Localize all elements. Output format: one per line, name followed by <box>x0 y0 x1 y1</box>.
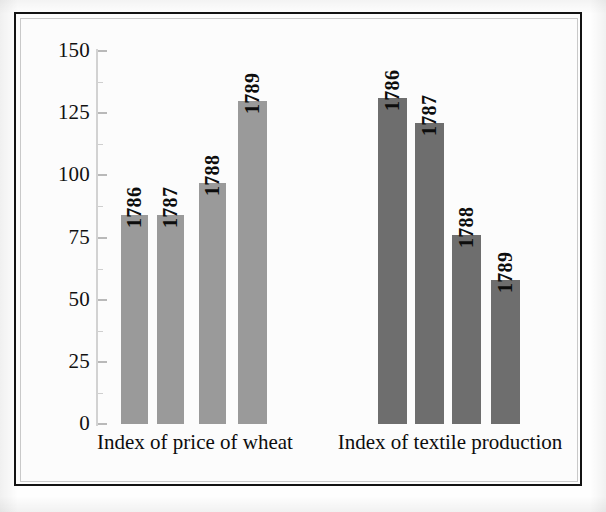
bar-value-label-1789: 1789 <box>495 252 515 293</box>
bar-value-label-1787: 1787 <box>160 187 180 228</box>
y-tick-0 <box>98 423 107 425</box>
scanned-page: 0255075100125150 17861787178817891786178… <box>0 0 606 512</box>
group-label-2: Index of textile production <box>0 432 606 453</box>
bar-value-label-1787: 1787 <box>419 95 439 136</box>
y-tick-25 <box>98 361 107 363</box>
y-minor-tick <box>98 206 103 207</box>
y-tick-125 <box>98 112 107 114</box>
y-tick-label-125: 125 <box>28 102 90 123</box>
y-tick-50 <box>98 299 107 301</box>
y-tick-label-slot: 125 <box>22 113 90 114</box>
y-minor-tick <box>98 269 103 270</box>
y-tick-label-slot: 150 <box>22 51 90 52</box>
bar-value-label-1788: 1788 <box>456 207 476 248</box>
bar-chart: 0255075100125150 17861787178817891786178… <box>0 0 606 512</box>
bar-index-of-price-of-wheat-1789 <box>238 101 267 424</box>
y-minor-tick <box>98 393 103 394</box>
bar-index-of-price-of-wheat-1788 <box>199 183 226 424</box>
bar-value-label-1786: 1786 <box>382 70 402 111</box>
y-minor-tick <box>98 82 103 83</box>
y-tick-label-0: 0 <box>28 413 90 434</box>
y-tick-label-150: 150 <box>28 40 90 61</box>
y-tick-label-50: 50 <box>28 289 90 310</box>
bar-index-of-price-of-wheat-1787 <box>157 215 184 424</box>
bar-index-of-textile-production-1788 <box>452 235 481 424</box>
y-tick-label-slot: 50 <box>22 300 90 301</box>
bar-index-of-textile-production-1789 <box>491 280 520 424</box>
bar-index-of-textile-production-1787 <box>415 123 444 424</box>
y-tick-label-100: 100 <box>28 164 90 185</box>
y-tick-label-slot: 75 <box>22 238 90 239</box>
bar-value-label-1788: 1788 <box>202 155 222 196</box>
y-minor-tick <box>98 331 103 332</box>
bar-value-label-1789: 1789 <box>242 73 262 114</box>
bar-value-label-1786: 1786 <box>124 187 144 228</box>
y-tick-label-slot: 100 <box>22 175 90 176</box>
y-tick-label-75: 75 <box>28 227 90 248</box>
y-tick-label-25: 25 <box>28 351 90 372</box>
bar-index-of-textile-production-1786 <box>378 98 407 424</box>
y-tick-100 <box>98 174 107 176</box>
y-tick-75 <box>98 237 107 239</box>
bar-index-of-price-of-wheat-1786 <box>121 215 148 424</box>
y-tick-label-slot: 25 <box>22 362 90 363</box>
y-tick-150 <box>98 50 107 52</box>
y-tick-label-slot: 0 <box>22 424 90 425</box>
y-minor-tick <box>98 144 103 145</box>
